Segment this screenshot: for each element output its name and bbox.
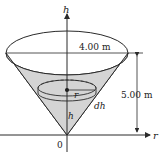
origin-label: 0 [57, 140, 63, 150]
r-axis-label: r [153, 130, 159, 141]
top-diameter-label: 4.00 m [79, 42, 111, 52]
disk-height-label: h [68, 111, 74, 121]
h-axis-label: h [63, 4, 69, 15]
cone-diagram: h r 0 4.00 m 5.00 m r dh h [0, 0, 162, 159]
disk-thickness-label: dh [94, 101, 106, 111]
height-label: 5.00 m [121, 90, 153, 100]
disk-radius-label: r [74, 90, 79, 100]
